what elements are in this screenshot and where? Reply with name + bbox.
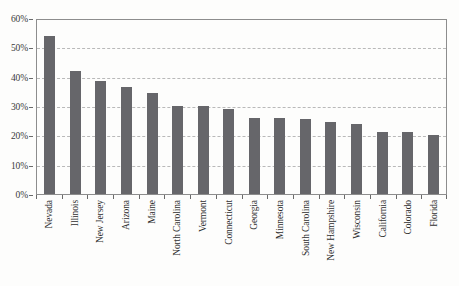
- x-axis-label-slot: Maine: [139, 200, 165, 284]
- bar-slot: [344, 20, 370, 194]
- bar-slot: [165, 20, 191, 194]
- x-axis-label-slot: New Jersey: [87, 200, 113, 284]
- bar[interactable]: [351, 124, 362, 194]
- x-axis-label-slot: Colorado: [396, 200, 422, 284]
- y-axis-tick-mark: [29, 107, 33, 108]
- x-axis-tick-mark: [36, 195, 37, 199]
- bar[interactable]: [198, 106, 209, 194]
- x-axis-label-slot: Wisconsin: [344, 200, 370, 284]
- y-axis-tick-label: 40%: [11, 73, 28, 83]
- y-axis-tick-mark: [29, 78, 33, 79]
- x-axis-tick-mark: [319, 195, 320, 199]
- x-axis-label-slot: Arizona: [113, 200, 139, 284]
- bar-slot: [114, 20, 140, 194]
- x-axis-category-label: Georgia: [249, 200, 259, 230]
- bar[interactable]: [95, 81, 106, 194]
- bar-slot: [293, 20, 319, 194]
- x-axis-tick-mark: [113, 195, 114, 199]
- bar[interactable]: [428, 135, 439, 194]
- bar[interactable]: [377, 132, 388, 194]
- bar[interactable]: [70, 71, 81, 194]
- bar[interactable]: [223, 109, 234, 194]
- bar-slot: [190, 20, 216, 194]
- x-axis-tick-mark: [139, 195, 140, 199]
- y-axis-tick-label: 0%: [16, 190, 28, 200]
- x-axis-category-label: New Jersey: [95, 200, 105, 243]
- bar-slot: [369, 20, 395, 194]
- bars-layer: [37, 20, 446, 194]
- x-axis-label-slot: Florida: [421, 200, 447, 284]
- x-axis-tick-mark: [62, 195, 63, 199]
- x-axis-label-slot: South Carolina: [293, 200, 319, 284]
- x-axis-category-label: Connecticut: [224, 200, 234, 245]
- x-axis-tick-mark: [267, 195, 268, 199]
- x-axis-label-slot: Minnesota: [267, 200, 293, 284]
- bar-slot: [216, 20, 242, 194]
- bar-slot: [63, 20, 89, 194]
- bar-slot: [37, 20, 63, 194]
- x-axis-category-label: California: [378, 200, 388, 238]
- x-axis-tick-mark: [87, 195, 88, 199]
- x-axis-category-label: North Carolina: [172, 200, 182, 256]
- bar-slot: [88, 20, 114, 194]
- x-axis-category-label: Florida: [429, 200, 439, 227]
- x-axis-label-slot: Connecticut: [216, 200, 242, 284]
- x-axis-label-slot: Nevada: [36, 200, 62, 284]
- y-axis-tick-mark: [29, 136, 33, 137]
- bar[interactable]: [274, 118, 285, 194]
- x-axis-tick-mark: [216, 195, 217, 199]
- x-axis-category-label: Wisconsin: [352, 200, 362, 239]
- x-axis-category-label: Illinois: [70, 200, 80, 226]
- bar-slot: [318, 20, 344, 194]
- bar[interactable]: [249, 118, 260, 194]
- x-axis-label-slot: Georgia: [242, 200, 268, 284]
- bar[interactable]: [147, 93, 158, 194]
- y-axis-tick-label: 30%: [11, 102, 28, 112]
- bar-slot: [420, 20, 446, 194]
- x-axis-category-label: Vermont: [198, 200, 208, 232]
- bar-chart: 0%10%20%30%40%50%60% NevadaIllinoisNew J…: [0, 0, 459, 286]
- bar[interactable]: [172, 106, 183, 194]
- y-axis-tick-mark: [29, 48, 33, 49]
- x-axis-tick-mark: [190, 195, 191, 199]
- x-axis-category-label: New Hampshire: [326, 200, 336, 261]
- y-axis-tick-mark: [29, 195, 33, 196]
- bar[interactable]: [300, 119, 311, 194]
- y-axis-tick-label: 60%: [11, 14, 28, 24]
- bar[interactable]: [402, 132, 413, 194]
- x-axis-tick-mark: [293, 195, 294, 199]
- x-axis-tick-mark: [164, 195, 165, 199]
- x-axis-tick-mark: [396, 195, 397, 199]
- bar[interactable]: [325, 122, 336, 194]
- bar-slot: [267, 20, 293, 194]
- x-axis-tick-mark: [421, 195, 422, 199]
- x-axis-category-label: Colorado: [403, 200, 413, 235]
- y-axis-tick-label: 10%: [11, 161, 28, 171]
- x-axis-category-label: Nevada: [44, 200, 54, 228]
- y-axis-tick-mark: [29, 166, 33, 167]
- bar-slot: [139, 20, 165, 194]
- x-axis-category-label: Maine: [147, 200, 157, 224]
- x-axis-category-label: South Carolina: [301, 200, 311, 256]
- x-axis-label-slot: California: [370, 200, 396, 284]
- plot-area: [36, 19, 447, 195]
- x-axis-category-label: Minnesota: [275, 200, 285, 239]
- bar[interactable]: [121, 87, 132, 194]
- bar[interactable]: [44, 36, 55, 194]
- x-axis-tick-mark: [446, 195, 447, 199]
- x-axis-tick-mark: [242, 195, 243, 199]
- y-axis-tick-label: 20%: [11, 131, 28, 141]
- x-axis-tick-mark: [370, 195, 371, 199]
- x-axis-category-label: Arizona: [121, 200, 131, 230]
- x-axis-label-slot: North Carolina: [164, 200, 190, 284]
- x-axis-labels: NevadaIllinoisNew JerseyArizonaMaineNort…: [36, 200, 447, 284]
- bar-slot: [242, 20, 268, 194]
- y-axis-tick-label: 50%: [11, 43, 28, 53]
- x-axis-tick-mark: [344, 195, 345, 199]
- x-axis-label-slot: New Hampshire: [319, 200, 345, 284]
- y-axis: 0%10%20%30%40%50%60%: [0, 19, 33, 195]
- x-axis-label-slot: Vermont: [190, 200, 216, 284]
- x-axis-label-slot: Illinois: [62, 200, 88, 284]
- y-axis-tick-mark: [29, 19, 33, 20]
- bar-slot: [395, 20, 421, 194]
